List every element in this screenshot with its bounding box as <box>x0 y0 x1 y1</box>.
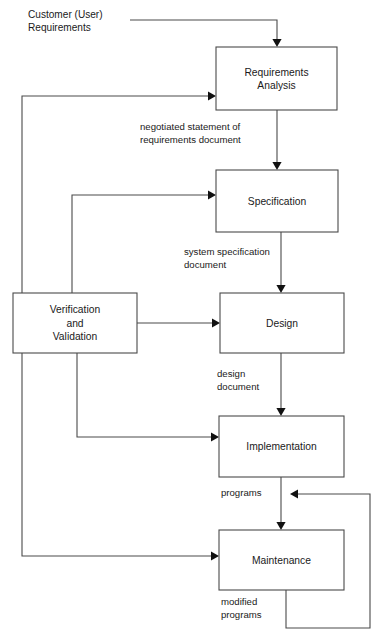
connector-specification-to-design <box>276 232 285 293</box>
arrowhead-validation-to-implementation <box>211 432 219 441</box>
source-label-line: Requirements <box>28 22 91 33</box>
arrowhead-customer-to-requirements-analysis <box>272 39 281 47</box>
arrowhead-maintenance-modified-programs-loop <box>290 489 298 498</box>
edge-label-programs: programs <box>221 487 262 498</box>
edge-label-line: programs <box>221 487 262 498</box>
box-verification-and-validation[interactable]: VerificationandValidation <box>13 293 137 353</box>
arrowhead-design-to-implementation <box>276 408 285 416</box>
edge-label-line: system specification <box>184 246 270 257</box>
box-label-implementation: Implementation <box>246 441 317 452</box>
box-requirements-analysis[interactable]: RequirementsAnalysis <box>216 47 337 110</box>
box-specification[interactable]: Specification <box>216 170 338 232</box>
box-label-verification-and-validation: Validation <box>53 331 98 342</box>
box-label-requirements-analysis: Requirements <box>244 67 308 78</box>
arrowhead-requirements-analysis-to-specification <box>272 162 281 170</box>
source-label-line: Customer (User) <box>28 9 103 20</box>
box-label-specification: Specification <box>248 196 307 207</box>
box-implementation[interactable]: Implementation <box>219 416 344 477</box>
edge-label-line: negotiated statement of <box>140 121 241 132</box>
box-maintenance[interactable]: Maintenance <box>219 530 344 590</box>
connector-design-to-implementation <box>276 353 285 416</box>
connector-validation-to-maintenance <box>22 353 219 561</box>
arrowhead-validation-to-design <box>212 318 220 327</box>
edge-label-line: document <box>217 381 259 392</box>
connector-validation-to-design <box>137 318 220 327</box>
arrowhead-validation-to-maintenance <box>211 551 219 560</box>
edge-label-design-document: designdocument <box>217 368 259 392</box>
box-label-design: Design <box>266 318 298 329</box>
edge-label-line: modified <box>221 596 257 607</box>
edge-label-line: design <box>217 368 245 379</box>
arrowhead-validation-feedback-to-requirements-analysis <box>208 91 216 100</box>
diagram-canvas: RequirementsAnalysisSpecificationVerific… <box>0 0 379 634</box>
box-label-requirements-analysis: Analysis <box>257 80 295 91</box>
connector-customer-to-requirements-analysis <box>130 20 282 47</box>
connector-validation-to-implementation <box>77 353 219 442</box>
connector-requirements-analysis-to-specification <box>272 110 281 170</box>
edge-label-modified-programs: modifiedprograms <box>221 596 262 620</box>
edge-label-line: requirements document <box>140 134 241 145</box>
source-label-customer-user-requirements: Customer (User)Requirements <box>28 9 103 33</box>
edge-label-negotiated-statement: negotiated statement ofrequirements docu… <box>140 121 241 145</box>
edge-label-system-specification-document: system specificationdocument <box>184 246 270 270</box>
box-outline-requirements-analysis <box>216 47 337 110</box>
arrowhead-validation-feedback-to-specification <box>208 190 216 199</box>
lifecycle-diagram: RequirementsAnalysisSpecificationVerific… <box>0 0 379 634</box>
connector-validation-feedback-to-specification <box>72 190 216 293</box>
arrowhead-implementation-to-maintenance <box>276 522 285 530</box>
box-label-verification-and-validation: and <box>66 318 83 329</box>
edge-label-line: programs <box>221 609 262 620</box>
box-label-maintenance: Maintenance <box>252 555 311 566</box>
arrowhead-specification-to-design <box>276 285 285 293</box>
box-design[interactable]: Design <box>220 293 344 353</box>
edge-label-line: document <box>184 259 226 270</box>
connector-implementation-to-maintenance <box>276 477 285 530</box>
box-label-verification-and-validation: Verification <box>50 304 101 315</box>
